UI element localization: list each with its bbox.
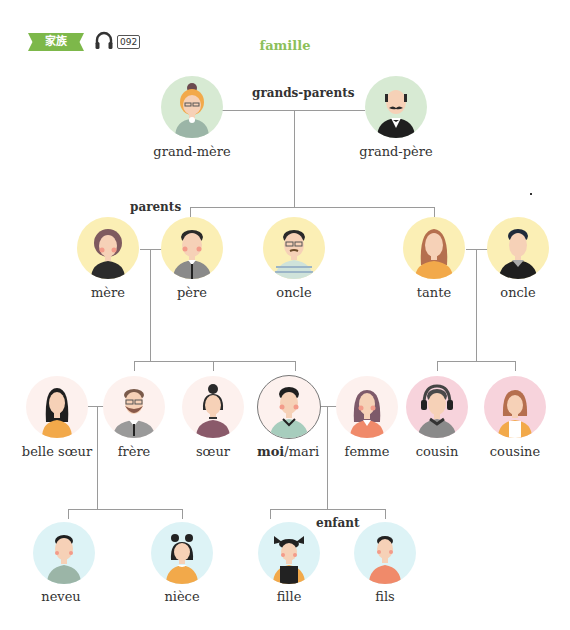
label-cousin-female: cousine bbox=[490, 444, 540, 459]
avatar-grandfather bbox=[365, 76, 427, 138]
connector-to-daughter bbox=[270, 509, 271, 519]
avatar-father bbox=[161, 217, 223, 279]
daughter-icon bbox=[258, 522, 320, 584]
label-aunt: tante bbox=[417, 285, 451, 300]
label-sister: sœur bbox=[196, 444, 230, 459]
avatar-daughter bbox=[258, 522, 320, 584]
label-uncle-paternal: oncle bbox=[276, 285, 311, 300]
label-wife: femme bbox=[345, 444, 390, 459]
avatar-niece bbox=[151, 522, 213, 584]
connector-nephews bbox=[68, 509, 182, 510]
avatar-nephew bbox=[33, 522, 95, 584]
mother-icon bbox=[77, 217, 139, 279]
aunt-icon bbox=[403, 217, 465, 279]
connector-to-father bbox=[190, 207, 191, 217]
son-icon bbox=[354, 522, 416, 584]
grandmother-icon bbox=[161, 76, 223, 138]
connector-aunt-down bbox=[476, 249, 477, 361]
connector-children bbox=[270, 509, 385, 510]
label-father: père bbox=[177, 285, 207, 300]
stray-dot bbox=[530, 193, 532, 195]
brother-icon bbox=[103, 376, 165, 438]
label-grandmother: grand-mère bbox=[153, 144, 230, 159]
group-label-parents: parents bbox=[130, 200, 181, 214]
avatar-cousin-male bbox=[406, 376, 468, 438]
label-me-bold: moi bbox=[257, 444, 284, 459]
connector-grandparents-down bbox=[294, 110, 295, 207]
avatar-cousin-female bbox=[484, 376, 546, 438]
connector-parents bbox=[140, 249, 162, 250]
connector-brother-down bbox=[97, 406, 98, 509]
connector-to-cousin bbox=[437, 361, 438, 371]
label-sister-in-law: belle sœur bbox=[22, 444, 92, 459]
avatar-brother bbox=[103, 376, 165, 438]
avatar-sister-in-law bbox=[26, 376, 88, 438]
label-cousin-male: cousin bbox=[416, 444, 459, 459]
connector-to-sister bbox=[213, 361, 214, 371]
connector-generation2 bbox=[190, 207, 434, 208]
sister-in-law-icon bbox=[26, 376, 88, 438]
label-me: moi/mari bbox=[257, 444, 319, 459]
label-son: fils bbox=[375, 589, 395, 604]
label-mother: mère bbox=[91, 285, 125, 300]
father-icon bbox=[161, 217, 223, 279]
avatar-me bbox=[257, 375, 321, 439]
avatar-grandmother bbox=[161, 76, 223, 138]
label-brother: frère bbox=[118, 444, 151, 459]
label-me-rest: /mari bbox=[284, 444, 319, 459]
uncle-icon bbox=[263, 217, 325, 279]
avatar-uncle-paternal bbox=[263, 217, 325, 279]
connector-to-niece bbox=[182, 509, 183, 519]
cousine-icon bbox=[484, 376, 546, 438]
connector-to-nephew bbox=[68, 509, 69, 519]
avatar-wife bbox=[336, 376, 398, 438]
connector-siblings bbox=[134, 361, 295, 362]
connector-to-son bbox=[385, 509, 386, 519]
connector-brother-couple bbox=[88, 406, 104, 407]
connector-cousins bbox=[437, 361, 515, 362]
avatar-uncle-maternal bbox=[487, 217, 549, 279]
wife-icon bbox=[336, 376, 398, 438]
label-nephew: neveu bbox=[41, 589, 80, 604]
connector-to-aunt bbox=[434, 207, 435, 217]
connector-to-me bbox=[295, 361, 296, 371]
cousin-icon bbox=[406, 376, 468, 438]
label-daughter: fille bbox=[277, 589, 302, 604]
nephew-icon bbox=[33, 522, 95, 584]
uncle-icon bbox=[487, 217, 549, 279]
connector-to-brother bbox=[134, 361, 135, 371]
avatar-son bbox=[354, 522, 416, 584]
avatar-sister bbox=[182, 376, 244, 438]
label-niece: nièce bbox=[164, 589, 199, 604]
label-uncle-maternal: oncle bbox=[500, 285, 535, 300]
sister-icon bbox=[182, 376, 244, 438]
me-icon bbox=[258, 376, 320, 438]
connector-parents-down bbox=[150, 249, 151, 361]
label-grandfather: grand-père bbox=[359, 144, 432, 159]
niece-icon bbox=[151, 522, 213, 584]
group-label-grandparents: grands-parents bbox=[252, 86, 355, 100]
connector-me-down bbox=[327, 406, 328, 509]
group-label-child: enfant bbox=[316, 516, 360, 530]
avatar-mother bbox=[77, 217, 139, 279]
grandfather-icon bbox=[365, 76, 427, 138]
avatar-aunt bbox=[403, 217, 465, 279]
connector-to-cousine bbox=[515, 361, 516, 371]
diagram-title: famille bbox=[0, 38, 570, 53]
